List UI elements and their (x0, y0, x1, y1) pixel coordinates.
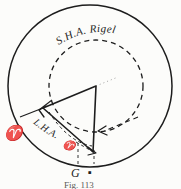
sha-rigel-label: S.H.A. Rigel (53, 22, 116, 47)
aries-point-label: ♈ (4, 124, 26, 142)
lha-aries-symbol: ♈ (61, 137, 80, 155)
pole-ray-extension (96, 77, 118, 86)
figure-caption: Fig. 113 (64, 180, 94, 189)
meridian-arrow-shaft (76, 142, 95, 153)
figure-container: ♈ S.H.A. Rigel L.H.A. ♈ G ▪ Fig. 113 (0, 0, 181, 189)
sha-leader-line (104, 117, 138, 131)
observer-marker-label: ▪ (88, 166, 92, 178)
greenwich-label: G (71, 166, 80, 180)
diagram-canvas: ♈ S.H.A. Rigel L.H.A. ♈ G ▪ Fig. 113 (0, 0, 181, 189)
